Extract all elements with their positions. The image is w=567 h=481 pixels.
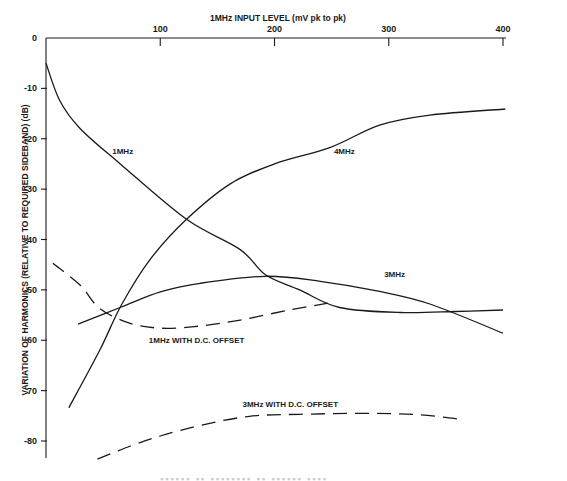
x-tick-label: 300	[381, 24, 396, 34]
curve-1mhz	[46, 63, 503, 313]
curve-4mhz	[69, 109, 506, 408]
figure-caption-cut-off: ▪▪▪▪▪▪ ▪▪ ▪▪▪▪▪▪▪▪ ▪▪ ▪▪▪▪▪▪ ▪▪▪▪	[160, 474, 390, 481]
curve-label: 1MHz WITH D.C. OFFSET	[149, 336, 245, 345]
x-tick-label: 100	[153, 24, 168, 34]
curve-label: 1MHz	[112, 147, 133, 156]
curve-label: 3MHz	[384, 270, 405, 279]
y-tick-label: 0	[32, 33, 37, 43]
curve-3mhz	[78, 276, 503, 333]
y-tick-label: -80	[24, 436, 37, 446]
curve-label: 3MHz WITH D.C. OFFSET	[243, 400, 339, 409]
y-tick-label: -10	[24, 83, 37, 93]
curve-labels: 1MHz4MHz3MHz1MHz WITH D.C. OFFSET3MHz WI…	[112, 147, 405, 409]
x-axis-title: 1MHz INPUT LEVEL (mV pk to pk)	[210, 13, 346, 23]
x-tick-label: 400	[495, 24, 510, 34]
axes	[46, 38, 506, 458]
y-axis-title: VARIATION OF HARMONICS (RELATIVE TO REQU…	[20, 104, 30, 395]
curve-1mhz-with-d-c-offset	[53, 263, 335, 328]
x-tick-label: 200	[267, 24, 282, 34]
curve-label: 4MHz	[334, 147, 355, 156]
harmonics-chart: 1002003004000-10-20-30-40-506070-80 1MHz…	[0, 0, 567, 481]
curve-3mhz-with-d-c-offset	[97, 413, 457, 459]
ticks: 1002003004000-10-20-30-40-506070-80	[24, 24, 511, 446]
